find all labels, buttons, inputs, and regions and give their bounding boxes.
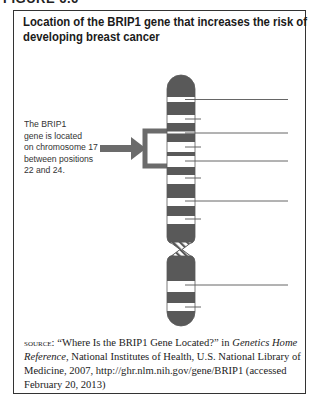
source-citation: Source: “Where Is the BRIP1 Gene Located… xyxy=(24,336,304,392)
centromere xyxy=(170,242,192,257)
chromosome-q-arm xyxy=(167,255,195,327)
source-rest: , National Institutes of Health, U.S. Na… xyxy=(24,351,301,390)
source-label: Source: xyxy=(24,337,55,348)
highlight-bracket xyxy=(145,131,167,166)
band-label-lines xyxy=(185,100,288,286)
arrow-icon xyxy=(100,137,146,160)
source-quote: “Where Is the BRIP1 Gene Located?” in xyxy=(55,337,233,348)
